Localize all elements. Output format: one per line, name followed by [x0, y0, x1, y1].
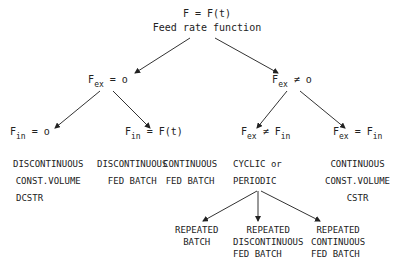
- node-fex-ne-fin: Fex ≠ Fin: [241, 126, 290, 138]
- child-repeated-discontinuous-fed-batch: REPEATED DISCONTINUOUS FED BATCH: [233, 224, 303, 260]
- node-fin-zero: Fin = o: [10, 126, 50, 138]
- category-continuous-fed-batch: CONTINUOUS FED BATCH: [163, 156, 217, 190]
- child-repeated-continuous-fed-batch: REPEATED CONTINUOUS FED BATCH: [311, 224, 365, 260]
- node-fex-eq-fin: Fex = Fin: [333, 126, 382, 138]
- root-label: Feed rate function: [153, 22, 261, 33]
- arrow-to-fex-ne-fin: [257, 91, 287, 128]
- arrow-to-repeated-batch: [203, 191, 257, 221]
- arrow-to-fin-zero: [55, 91, 100, 128]
- node-fin-ft: Fin = F(t): [125, 126, 183, 138]
- category-discontinuous-fed-batch: DISCONTINUOUS FED BATCH: [97, 156, 167, 190]
- child-repeated-batch: REPEATED BATCH: [175, 224, 218, 248]
- arrow-root-to-fex-nonzero: [215, 38, 278, 73]
- category-cstr: CONTINUOUS CONST.VOLUME CSTR: [325, 156, 390, 207]
- arrow-root-to-fex-zero: [135, 38, 190, 73]
- root-equation: F = F(t): [183, 8, 231, 19]
- arrow-to-repeated-continuous: [261, 191, 320, 221]
- node-fex-zero: Fex = o: [88, 74, 128, 86]
- category-cyclic-periodic: CYCLIC or PERIODIC: [233, 156, 282, 190]
- arrow-to-fin-ft: [113, 91, 150, 128]
- category-dcstr: DISCONTINUOUS CONST.VOLUME DCSTR: [13, 156, 83, 207]
- node-fex-nonzero: Fex ≠ o: [272, 74, 312, 86]
- arrow-to-fex-eq-fin: [300, 91, 345, 128]
